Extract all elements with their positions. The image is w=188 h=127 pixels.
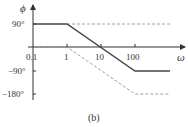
x-tick-label-0.1: 0.1 (26, 52, 37, 62)
y-tick-label-90: 90° (12, 19, 25, 29)
x-tick-label-1: 1 (64, 52, 69, 62)
x-tick-label-100: 100 (126, 52, 140, 62)
bode-phase-chart: ϕ ω 0.1 1 10 100 90° −90° −180° (b) (0, 0, 188, 127)
x-axis-label: ω (177, 51, 185, 63)
y-tick-label-neg180: −180° (2, 89, 25, 99)
y-tick-label-neg90: −90° (8, 66, 26, 76)
figure-caption: (b) (88, 112, 100, 124)
y-axis-label: ϕ (20, 2, 26, 14)
x-tick-label-10: 10 (95, 52, 105, 62)
